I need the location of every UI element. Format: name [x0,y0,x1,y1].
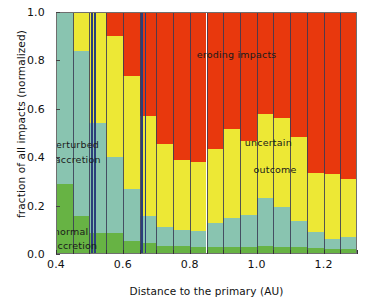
y-tick-label: 0.6 [0,102,50,115]
bar-segment-perturbed-accretion [190,231,207,247]
bar-segment-eroding-impacts [290,12,307,137]
y-tick-label: 0.8 [0,54,50,67]
stacked-bar [307,12,324,254]
bar-segment-perturbed-accretion [257,198,274,245]
bar-segment-uncertain-outcome [307,173,324,232]
bar-segment-normal-accretion [290,247,307,254]
annotation-label: accretion [56,154,101,165]
bar-segment-normal-accretion [173,246,190,254]
y-tick-mark [56,109,60,110]
bar-segment-perturbed-accretion [240,215,257,246]
x-tick-mark [340,250,341,254]
bar-segment-normal-accretion [156,246,173,254]
stacked-bar [340,12,357,254]
bar-segment-uncertain-outcome [173,160,190,230]
chart-figure: fraction of all impacts (normalized) 0.0… [0,0,367,306]
stacked-bar [173,12,190,254]
y-tick-label: 0.4 [0,151,50,164]
bar-segment-uncertain-outcome [123,76,140,189]
bar-segment-eroding-impacts [173,12,190,160]
x-tick-label: 0.4 [47,258,65,271]
vertical-marker-line [91,12,92,254]
bar-segment-normal-accretion [123,241,140,254]
bar-segment-uncertain-outcome [240,141,257,215]
stacked-bar [73,12,90,254]
y-tick-mark [56,157,60,158]
stacked-bar [290,12,307,254]
x-tick-mark [73,250,74,254]
stacked-bar [106,12,123,254]
x-tick-mark [290,250,291,254]
bar-segment-uncertain-outcome [106,36,123,157]
x-tick-mark [106,250,107,254]
bar-segment-eroding-impacts [123,12,140,76]
x-tick-mark [257,250,258,254]
stacked-bar [156,12,173,254]
annotation-label: normal [56,226,88,237]
bar-separator-line [340,12,341,254]
x-tick-mark [190,250,191,254]
x-tick-mark [56,250,57,254]
bar-segment-eroding-impacts [106,12,123,36]
bar-segment-normal-accretion [106,233,123,254]
annotation-label: uncertain [245,137,292,148]
x-tick-label: 1.0 [248,258,266,271]
x-tick-label: 0.6 [114,258,132,271]
bar-segment-uncertain-outcome [340,179,357,237]
bar-segment-perturbed-accretion [223,218,240,247]
bar-segment-eroding-impacts [273,12,290,118]
bar-segment-normal-accretion [340,249,357,254]
bar-segment-eroding-impacts [240,12,257,141]
bar-separator-line [307,12,308,254]
x-tick-mark [324,250,325,254]
bar-segment-perturbed-accretion [273,207,290,247]
x-tick-mark [223,250,224,254]
bar-segment-eroding-impacts [324,12,341,174]
vertical-marker-line [145,12,146,254]
annotation-label: outcome [254,164,297,175]
y-tick-mark [56,206,60,207]
bar-segment-perturbed-accretion [73,51,90,217]
x-tick-mark [357,250,358,254]
bar-separator-line [123,12,124,254]
x-tick-mark [240,250,241,254]
bar-segment-eroding-impacts [257,12,274,114]
bar-segment-uncertain-outcome [190,162,207,231]
x-tick-mark [173,250,174,254]
stacked-bar [56,12,73,254]
bar-segment-normal-accretion [223,247,240,254]
annotation-label: eroding impacts [197,49,277,60]
y-tick-mark [56,60,60,61]
bar-segment-uncertain-outcome [257,114,274,199]
bar-segment-eroding-impacts [207,12,224,149]
bar-separator-line [106,12,107,254]
plot-area: eroding impactsperturbedaccretionuncerta… [56,12,357,254]
x-tick-mark [89,250,90,254]
bar-segment-uncertain-outcome [156,144,173,227]
bar-segment-perturbed-accretion [156,227,173,245]
bar-segment-uncertain-outcome [223,129,240,217]
vertical-marker-line [94,12,95,254]
vertical-marker-line [141,12,142,254]
annotation-label: perturbed [56,139,99,150]
bar-separator-line [324,12,325,254]
bar-segment-normal-accretion [273,247,290,254]
bar-separator-line [290,12,291,254]
x-tick-mark [123,250,124,254]
x-axis-tick-labels: 0.40.60.81.01.2 [0,258,367,278]
bar-segment-eroding-impacts [190,12,207,162]
y-tick-mark [56,254,60,255]
bar-segment-normal-accretion [324,249,341,254]
bar-separator-line [173,12,174,254]
bar-segment-uncertain-outcome [207,149,224,223]
bar-segment-eroding-impacts [340,12,357,179]
bar-segment-uncertain-outcome [324,174,341,239]
bar-segment-perturbed-accretion [123,189,140,241]
x-tick-label: 0.8 [181,258,199,271]
stacked-bar [123,12,140,254]
x-tick-mark [207,250,208,254]
bar-segment-normal-accretion [257,246,274,254]
x-tick-mark [307,250,308,254]
bar-segment-eroding-impacts [156,12,173,144]
bar-segment-perturbed-accretion [106,157,123,233]
